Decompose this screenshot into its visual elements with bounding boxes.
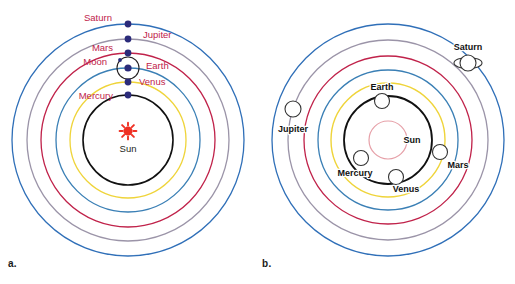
panel-b: Saturn Jupiter Earth Mercury Venus Mars …: [272, 24, 504, 256]
planet-marker-venus-b[interactable]: [389, 170, 404, 185]
label-moon-a: Moon: [83, 56, 107, 67]
sun-icon-a: [120, 123, 137, 140]
diagram-canvas: Saturn Jupiter Mars Moon Earth Venus Mer…: [0, 0, 515, 284]
panel-b-letter: b.: [262, 258, 272, 269]
label-mars-a: Mars: [92, 42, 113, 53]
planet-marker-mars-a[interactable]: [125, 50, 132, 57]
planet-marker-mercury-a[interactable]: [125, 92, 132, 99]
label-jupiter-a: Jupiter: [143, 29, 172, 40]
sun-ring-b: [369, 121, 407, 159]
panel-a: Saturn Jupiter Mars Moon Earth Venus Mer…: [12, 12, 244, 256]
label-mars-b: Mars: [447, 160, 468, 170]
label-earth-b: Earth: [370, 82, 393, 92]
planet-marker-mercury-b[interactable]: [354, 151, 369, 166]
label-mercury-b: Mercury: [337, 168, 372, 178]
panel-a-letter: a.: [8, 258, 17, 269]
label-jupiter-b: Jupiter: [278, 124, 309, 134]
planet-marker-earth-b[interactable]: [375, 94, 390, 109]
label-sun-b: Sun: [404, 135, 421, 145]
planet-marker-jupiter-a[interactable]: [125, 36, 132, 43]
planet-marker-moon-a[interactable]: [118, 58, 122, 62]
planet-marker-mars-b[interactable]: [433, 145, 448, 160]
label-sun-a: Sun: [120, 143, 137, 154]
planet-marker-jupiter-b[interactable]: [285, 101, 301, 117]
label-saturn-a: Saturn: [84, 12, 112, 23]
planet-marker-venus-a[interactable]: [125, 79, 132, 86]
label-venus-b: Venus: [393, 184, 420, 194]
planet-marker-earth-a[interactable]: [124, 64, 131, 71]
solar-system-figure: Saturn Jupiter Mars Moon Earth Venus Mer…: [0, 0, 515, 284]
label-saturn-b: Saturn: [454, 42, 483, 52]
label-venus-a: Venus: [139, 76, 166, 87]
label-mercury-a: Mercury: [79, 90, 114, 101]
planet-marker-saturn-a[interactable]: [125, 21, 132, 28]
label-earth-a: Earth: [146, 60, 169, 71]
